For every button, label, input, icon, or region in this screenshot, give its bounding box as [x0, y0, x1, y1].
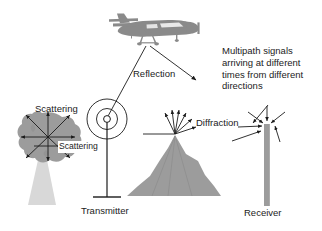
airplane-icon — [109, 13, 200, 45]
diffraction-arrows — [165, 110, 196, 134]
propagation-diagram: Reflection Scattering Scattering Diffrac… — [0, 0, 322, 231]
label-scattering-inner: Scattering — [58, 141, 99, 153]
label-scattering-top: Scattering — [35, 103, 78, 115]
label-diffraction: Diffraction — [196, 117, 239, 129]
multipath-arrows — [232, 106, 285, 142]
mountain-icon — [127, 135, 221, 196]
label-receiver: Receiver — [244, 207, 282, 219]
reflection-incident-ray — [107, 46, 146, 118]
tree-icon — [18, 112, 82, 205]
receiver-antenna-icon — [264, 124, 270, 206]
multipath-ray-from-above — [253, 105, 268, 123]
diagram-vector-layer — [0, 0, 322, 231]
label-transmitter: Transmitter — [81, 205, 129, 217]
antenna-icon — [93, 116, 121, 197]
label-reflection: Reflection — [133, 68, 175, 80]
label-multipath-description: Multipath signals arriving at different … — [222, 45, 314, 92]
